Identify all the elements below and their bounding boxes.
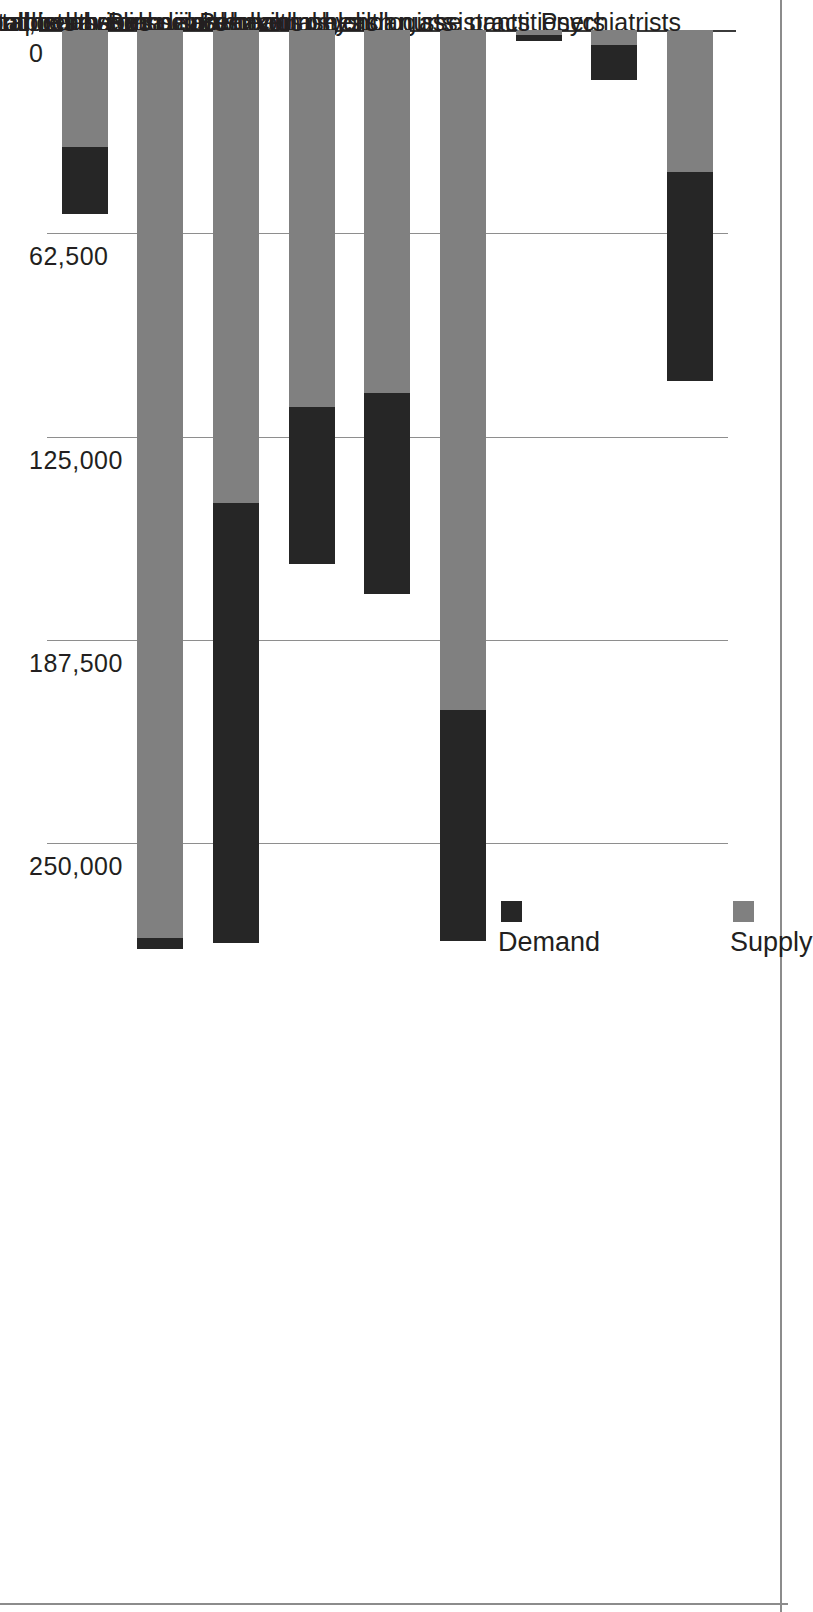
bar-segment-supply[interactable] xyxy=(365,30,411,393)
bar-segment-demand[interactable] xyxy=(138,938,184,949)
bar-segment-demand[interactable] xyxy=(62,147,108,214)
plot-area: 062,500125,000187,500250,000Psychiatrist… xyxy=(47,30,728,941)
bar-segment-supply[interactable] xyxy=(62,30,108,147)
bar-group[interactable] xyxy=(365,30,411,941)
bar-segment-demand[interactable] xyxy=(592,45,638,81)
bar-segment-supply[interactable] xyxy=(213,30,259,503)
bar-group[interactable] xyxy=(440,30,486,941)
value-tick-label: 0 xyxy=(29,39,43,68)
bar-group[interactable] xyxy=(213,30,259,941)
bar-segment-demand[interactable] xyxy=(289,407,335,563)
bar-segment-supply[interactable] xyxy=(667,30,713,172)
bar-group[interactable] xyxy=(667,30,713,941)
category-label: Marriage and family therapists xyxy=(0,8,76,37)
legend-label: Demand xyxy=(498,927,600,958)
legend-swatch-supply-icon xyxy=(733,901,754,922)
bar-segment-demand[interactable] xyxy=(440,710,486,941)
bar-group[interactable] xyxy=(289,30,335,941)
bar-group[interactable] xyxy=(516,30,562,941)
bar-segment-supply[interactable] xyxy=(440,30,486,710)
bar-group[interactable] xyxy=(138,30,184,941)
bar-group[interactable] xyxy=(592,30,638,941)
bar-segment-supply[interactable] xyxy=(289,30,335,407)
bar-segment-supply[interactable] xyxy=(138,30,184,938)
bar-segment-demand[interactable] xyxy=(667,172,713,382)
legend-label: Supply xyxy=(730,927,813,958)
bar-segment-demand[interactable] xyxy=(213,503,259,942)
legend-swatch-demand-icon xyxy=(501,901,522,922)
bar-group[interactable] xyxy=(62,30,108,941)
bar-segment-demand[interactable] xyxy=(365,393,411,595)
